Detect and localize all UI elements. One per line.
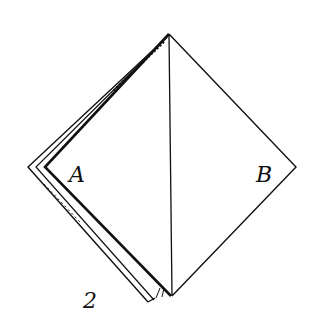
bottom-layer-tip-2	[156, 288, 160, 298]
middle-layer-edge	[36, 37, 167, 300]
label-region-b: B	[255, 162, 272, 187]
center-fold-line	[169, 34, 172, 296]
layer-texture-bottom	[44, 184, 80, 222]
label-region-a: A	[67, 162, 85, 187]
step-number: 2	[82, 288, 97, 313]
origami-step-diagram: A B 2	[0, 0, 316, 325]
region-b-outline	[169, 34, 296, 296]
